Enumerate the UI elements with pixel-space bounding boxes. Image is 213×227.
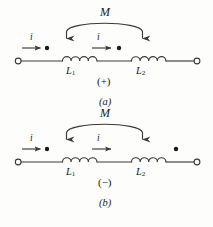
current-label-left-a: i bbox=[30, 33, 33, 43]
inductor-label-L1-sub-a: 1 bbox=[72, 69, 76, 77]
polarity-dot-L1-b bbox=[45, 147, 49, 151]
terminal-left-a bbox=[15, 58, 21, 64]
current-label-mid-a: i bbox=[97, 33, 100, 43]
current-label-mid-b: i bbox=[97, 134, 100, 144]
polarity-dot-L2-a bbox=[117, 46, 121, 50]
inductor-label-L2-sub-a: 2 bbox=[142, 69, 146, 77]
inductor-label-L1-b: L1 bbox=[66, 167, 75, 178]
circuit-schematic-b bbox=[0, 114, 213, 227]
inductor-L2-coil-a bbox=[132, 57, 166, 61]
inductor-L1-coil-a bbox=[63, 57, 97, 61]
inductor-label-L1-a: L1 bbox=[66, 66, 75, 77]
terminal-left-b bbox=[15, 159, 21, 165]
sign-label-b: (−) bbox=[98, 177, 112, 188]
terminal-right-a bbox=[194, 58, 200, 64]
terminal-right-b bbox=[194, 159, 200, 165]
polarity-dot-L2-b bbox=[174, 147, 178, 151]
inductor-L1-coil-b bbox=[63, 158, 97, 162]
circuit-diagram-b: M i i L1 L2 (−) (b) bbox=[0, 114, 213, 227]
inductor-label-L1-sub-b: 1 bbox=[72, 170, 76, 178]
inductor-label-L2-b: L2 bbox=[136, 167, 145, 178]
caption-b: (b) bbox=[99, 198, 111, 209]
mutual-coupling-arc-b bbox=[67, 124, 143, 139]
figure-root: M i i L1 L2 (+) (a) bbox=[0, 0, 213, 227]
polarity-dot-L1-a bbox=[45, 46, 49, 50]
coupling-label-M-a: M bbox=[100, 6, 110, 18]
coupling-label-M-b: M bbox=[100, 107, 110, 119]
circuit-diagram-a: M i i L1 L2 (+) (a) bbox=[0, 0, 213, 113]
inductor-label-L2-sub-b: 2 bbox=[142, 170, 146, 178]
current-label-left-b: i bbox=[30, 134, 33, 144]
mutual-coupling-arc-a bbox=[67, 23, 143, 38]
inductor-label-L2-a: L2 bbox=[136, 66, 145, 77]
inductor-L2-coil-b bbox=[132, 158, 166, 162]
sign-label-a: (+) bbox=[97, 76, 111, 87]
